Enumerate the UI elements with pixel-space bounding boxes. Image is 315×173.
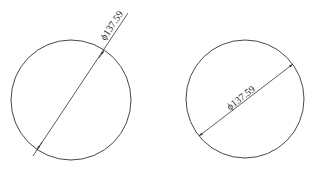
right-dimension-label: ϕ137.59 [224,83,257,112]
left-circle [11,40,131,160]
left-arrow-bottom [37,142,42,150]
left-arrow-top [99,51,104,59]
left-dimension-label: ϕ137.59 [98,9,125,42]
drawing-canvas: ϕ137.59 ϕ137.59 [0,0,315,173]
left-diameter-figure: ϕ137.59 [11,9,131,160]
right-diameter-figure: ϕ137.59 [186,40,304,158]
left-dimension-line [33,13,128,156]
